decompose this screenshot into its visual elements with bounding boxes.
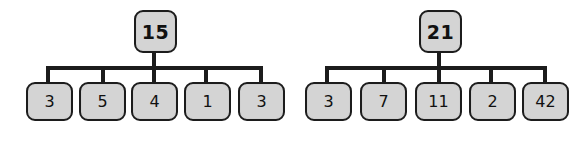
tree-right-leaf-5-label: 42 (535, 92, 555, 111)
tree-right: 21 3 7 11 2 42 (293, 0, 586, 144)
tree-left-leaf-2-label: 5 (97, 92, 107, 111)
tree-left-leaf-5: 3 (238, 82, 285, 121)
tree-left-leaf-4: 1 (184, 82, 231, 121)
tree-left-leaf-2: 5 (79, 82, 126, 121)
tree-right-root-label: 21 (427, 21, 454, 43)
tree-right-leaf-3: 11 (415, 82, 462, 121)
tree-right-distribution-bar (325, 66, 547, 70)
tree-right-leaf-1: 3 (305, 82, 352, 121)
tree-left-root-label: 15 (142, 21, 169, 43)
tree-left-leaf-5-label: 3 (256, 92, 266, 111)
tree-right-leaf-3-label: 11 (428, 92, 448, 111)
tree-right-leaf-2: 7 (360, 82, 407, 121)
tree-left-leaf-4-label: 1 (202, 92, 212, 111)
tree-left-leaf-3: 4 (131, 82, 178, 121)
diagram-canvas: 15 3 5 4 1 3 21 (0, 0, 586, 144)
tree-left-root-node: 15 (134, 10, 177, 53)
tree-right-leaf-5: 42 (522, 82, 569, 121)
tree-left: 15 3 5 4 1 3 (0, 0, 293, 144)
tree-right-root-node: 21 (419, 10, 462, 53)
tree-left-leaf-3-label: 4 (149, 92, 159, 111)
tree-right-leaf-1-label: 3 (323, 92, 333, 111)
tree-right-leaf-4: 2 (469, 82, 516, 121)
tree-right-leaf-2-label: 7 (378, 92, 388, 111)
tree-left-leaf-1: 3 (26, 82, 73, 121)
tree-left-leaf-1-label: 3 (44, 92, 54, 111)
tree-right-leaf-4-label: 2 (487, 92, 497, 111)
